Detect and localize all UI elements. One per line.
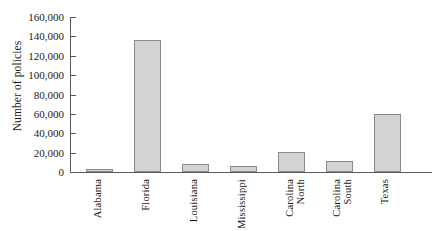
bar-texas (374, 114, 401, 172)
x-label-line: South (342, 179, 353, 205)
y-tick-mark (71, 56, 76, 57)
plot-area: 020,00040,00060,00080,000100,000120,0001… (70, 17, 432, 172)
y-tick-label: 40,000 (34, 127, 64, 139)
x-label-line: North (295, 179, 306, 205)
y-tick-label: 60,000 (34, 108, 64, 120)
x-label-texas: Texas (379, 179, 390, 195)
bar-louisiana (182, 164, 209, 172)
x-label-north-carolina: NorthCarolina (284, 179, 306, 195)
y-tick-label: 80,000 (34, 89, 64, 101)
x-label-line: Mississippi (236, 179, 247, 229)
y-tick-mark (71, 17, 76, 18)
x-label-alabama: Alabama (92, 179, 103, 195)
x-label-line: Florida (140, 179, 151, 211)
x-label-line: Carolina (284, 179, 295, 217)
x-label-line: Louisiana (188, 179, 199, 222)
y-tick-label: 20,000 (34, 147, 64, 159)
bar-florida (134, 40, 161, 172)
y-tick-label: 0 (59, 166, 65, 178)
y-tick-mark (71, 95, 76, 96)
x-label-louisiana: Louisiana (188, 179, 199, 195)
x-label-line: Alabama (92, 179, 103, 218)
x-axis-line (70, 172, 432, 173)
bar-north-carolina (278, 152, 305, 172)
x-label-mississippi: Mississippi (236, 179, 247, 195)
x-label-south-carolina: SouthCarolina (331, 179, 353, 195)
y-tick-label: 120,000 (28, 50, 64, 62)
y-axis-title: Number of policies (8, 0, 26, 172)
bar-mississippi (230, 166, 257, 172)
x-label-line: Carolina (331, 179, 342, 217)
y-tick-label: 140,000 (28, 30, 64, 42)
y-tick-mark (71, 75, 76, 76)
y-tick-mark (71, 36, 76, 37)
y-tick-mark (71, 133, 76, 134)
y-tick-mark (71, 172, 76, 173)
y-tick-label: 160,000 (28, 11, 64, 23)
y-tick-mark (71, 153, 76, 154)
bar-alabama (86, 169, 113, 172)
y-tick-label: 100,000 (28, 69, 64, 81)
x-label-florida: Florida (140, 179, 151, 195)
bar-south-carolina (326, 161, 353, 172)
bar-chart-figure: Number of policies 020,00040,00060,00080… (0, 0, 445, 231)
x-label-line: Texas (379, 179, 390, 204)
y-tick-mark (71, 114, 76, 115)
